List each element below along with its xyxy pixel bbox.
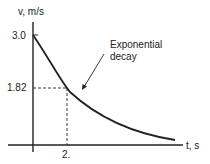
decay-curve (33, 35, 175, 140)
x-axis-label: t, s (186, 140, 199, 151)
y-axis-label: v, m/s (18, 6, 44, 17)
arrow-head-icon (82, 84, 87, 90)
annotation-arrow (84, 54, 104, 87)
y-tick-label-mid: 1.82 (7, 82, 27, 93)
annotation-line-2: decay (110, 51, 137, 62)
velocity-decay-chart: v, m/s t, s 3.0 1.82 2. Exponential deca… (0, 0, 210, 164)
chart-canvas: v, m/s t, s 3.0 1.82 2. Exponential deca… (0, 0, 210, 164)
x-tick-label: 2. (62, 149, 70, 160)
y-tick-label-top: 3.0 (12, 30, 26, 41)
annotation-line-1: Exponential (110, 39, 162, 50)
